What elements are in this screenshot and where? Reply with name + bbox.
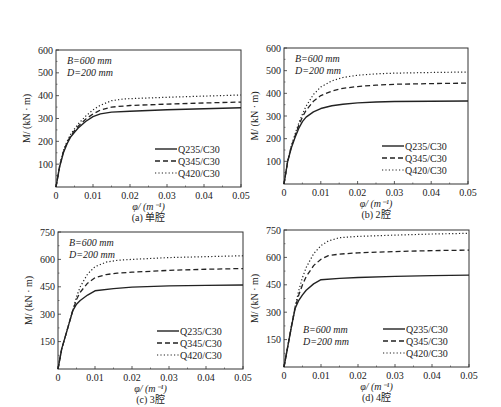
y-tick-label: 300: [266, 111, 281, 122]
x-tick-label: 0.02: [121, 190, 139, 201]
y-tick-label: 150: [266, 334, 281, 345]
x-tick-label: 0: [54, 190, 59, 201]
legend-entry: Q420/C30: [178, 168, 220, 179]
legend-entry: Q345/C30: [180, 338, 222, 349]
y-tick-label: 600: [40, 254, 55, 265]
y-tick-label: 300: [266, 307, 281, 318]
x-tick-label: 0.04: [423, 370, 441, 381]
x-tick-label: 0.01: [312, 187, 330, 198]
x-tick-label: 0.05: [459, 187, 477, 198]
x-tick-label: 0: [282, 370, 287, 381]
x-tick-label: 0.03: [386, 187, 404, 198]
annotation-text: D=200 mm: [294, 65, 341, 76]
x-tick-label: 0.02: [349, 187, 367, 198]
x-tick-label: 0.05: [234, 372, 252, 383]
panel-a: 00.010.020.030.040.05100200300400500600φ…: [21, 45, 250, 225]
y-tick-label: 500: [38, 67, 53, 78]
y-tick-label: 300: [38, 113, 53, 124]
x-tick-label: 0.03: [158, 190, 176, 201]
x-tick-label: 0: [56, 372, 61, 383]
y-tick-label: 200: [266, 133, 281, 144]
y-tick-label: 450: [40, 281, 55, 292]
x-tick-label: 0.03: [160, 372, 178, 383]
panel-caption: (b) 2腔: [361, 208, 390, 221]
legend-entry: Q235/C30: [406, 324, 448, 335]
y-tick-label: 100: [38, 159, 53, 170]
panel-caption: (c) 3腔: [136, 393, 165, 406]
annotation-text: D=200 mm: [68, 249, 115, 260]
legend-entry: Q345/C30: [178, 156, 220, 167]
panel-caption: (a) 单腔: [132, 211, 166, 224]
legend-entry: Q420/C30: [180, 350, 222, 361]
legend-entry: Q235/C30: [180, 326, 222, 337]
panel-caption: (d) 4腔: [362, 391, 391, 404]
y-axis-label: M/ (kN · m): [23, 276, 35, 325]
y-axis-label: M/ (kN · m): [249, 274, 261, 323]
x-tick-label: 0.05: [232, 190, 250, 201]
x-tick-label: 0: [282, 187, 287, 198]
legend-entry: Q420/C30: [406, 348, 448, 359]
panel-d: 00.010.020.030.040.05150300450600750φ/ (…: [249, 225, 478, 405]
annotation-text: B=600 mm: [295, 53, 340, 64]
y-tick-label: 150: [40, 336, 55, 347]
y-tick-label: 450: [266, 279, 281, 290]
x-tick-label: 0.01: [84, 190, 102, 201]
y-tick-label: 500: [266, 65, 281, 76]
legend-entry: Q235/C30: [405, 141, 447, 152]
x-tick-label: 0.03: [386, 370, 404, 381]
y-tick-label: 100: [266, 156, 281, 167]
y-tick-label: 750: [40, 227, 55, 238]
panel-b: 00.010.020.030.040.05100200300400500600φ…: [249, 43, 477, 222]
x-tick-label: 0.01: [86, 372, 104, 383]
x-tick-label: 0.02: [349, 370, 367, 381]
legend-entry: Q345/C30: [405, 153, 447, 164]
annotation-text: D=200 mm: [66, 67, 113, 78]
panel-c: 00.010.020.030.040.05150300450600750φ/ (…: [23, 227, 252, 407]
y-tick-label: 400: [38, 90, 53, 101]
y-axis-label: M/ (kN · m): [249, 91, 261, 140]
annotation-text: B=600 mm: [67, 55, 112, 66]
x-tick-label: 0.01: [312, 370, 330, 381]
annotation-text: D=200 mm: [302, 336, 349, 347]
y-tick-label: 600: [266, 43, 281, 54]
y-axis-label: M/ (kN · m): [21, 94, 33, 143]
y-tick-label: 600: [266, 252, 281, 263]
y-tick-label: 300: [40, 309, 55, 320]
legend-entry: Q345/C30: [406, 336, 448, 347]
x-tick-label: 0.05: [460, 370, 478, 381]
y-tick-label: 750: [266, 225, 281, 236]
annotation-text: B=600 mm: [69, 237, 114, 248]
legend-entry: Q235/C30: [178, 144, 220, 155]
y-tick-label: 200: [38, 136, 53, 147]
y-tick-label: 600: [38, 45, 53, 56]
x-tick-label: 0.04: [195, 190, 213, 201]
x-tick-label: 0.02: [123, 372, 141, 383]
legend-entry: Q420/C30: [405, 165, 447, 176]
x-tick-label: 0.04: [197, 372, 215, 383]
figure-4-panel-moment-curvature: 00.010.020.030.040.05100200300400500600φ…: [0, 0, 501, 407]
y-tick-label: 400: [266, 88, 281, 99]
x-tick-label: 0.04: [422, 187, 440, 198]
annotation-text: B=600 mm: [303, 324, 348, 335]
